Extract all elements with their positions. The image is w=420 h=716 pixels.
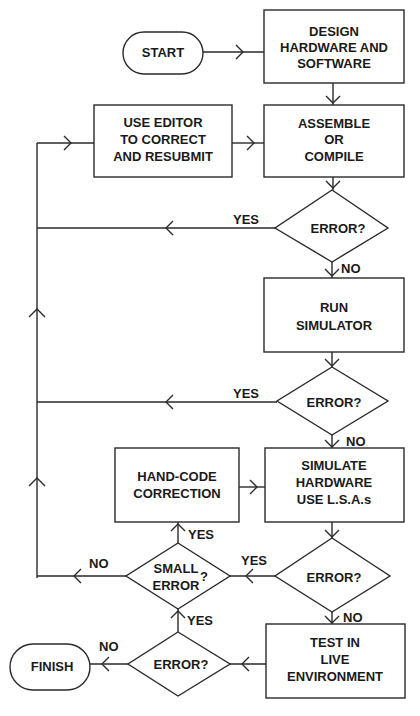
start-terminator: START [123,32,203,74]
handcode-line-2: CORRECTION [133,486,220,501]
error1-no-label: NO [341,261,361,276]
small-error-question-mark: ? [200,569,208,584]
test-line-1: TEST IN [310,635,360,650]
start-label: START [142,45,184,60]
test-line-3: ENVIRONMENT [287,669,383,684]
run-simulator-process: RUN SIMULATOR [264,278,404,352]
editor-line-1: USE EDITOR [123,115,203,130]
assemble-line-3: COMPILE [304,149,364,164]
assemble-line-1: ASSEMBLE [298,116,371,131]
design-process: DESIGN HARDWARE AND SOFTWARE [264,10,404,83]
error2-yes-label: YES [233,386,259,401]
small-error-line-1: SMALL [154,561,199,576]
test-live-process: TEST IN LIVE ENVIRONMENT [266,624,405,698]
error3-no-label: NO [343,610,363,625]
finish-label: FINISH [31,659,74,674]
small-error-yes-label: YES [188,527,214,542]
error1-decision: ERROR? [275,190,388,262]
error3-yes-label: YES [241,553,267,568]
error4-decision: ERROR? [128,632,230,696]
design-line-1: DESIGN [309,24,359,39]
run-sim-line-2: SIMULATOR [296,318,373,333]
editor-line-3: AND RESUBMIT [113,149,213,164]
test-line-2: LIVE [321,652,350,667]
simulate-line-2: HARDWARE [296,475,373,490]
error2-label: ERROR? [307,395,362,410]
error4-yes-label: YES [187,613,213,628]
flowchart: START DESIGN HARDWARE AND SOFTWARE ASSEM… [0,0,420,716]
error3-decision: ERROR? [275,538,390,612]
error2-decision: ERROR? [277,367,388,435]
design-line-3: SOFTWARE [297,56,371,71]
error1-yes-label: YES [233,212,259,227]
design-line-2: HARDWARE AND [280,40,388,55]
small-error-no-label: NO [89,556,109,571]
handcode-line-1: HAND-CODE [137,469,217,484]
error1-label: ERROR? [311,221,366,236]
small-error-line-2: ERROR [153,578,201,593]
error4-no-label: NO [99,639,119,654]
editor-line-2: TO CORRECT [120,132,206,147]
simulate-line-1: SIMULATE [301,458,367,473]
editor-process: USE EDITOR TO CORRECT AND RESUBMIT [94,105,232,177]
simulate-hardware-process: SIMULATE HARDWARE USE L.S.A.s [265,448,404,522]
run-sim-line-1: RUN [320,300,348,315]
error3-label: ERROR? [307,570,362,585]
finish-terminator: FINISH [10,644,90,690]
hand-code-process: HAND-CODE CORRECTION [115,448,239,522]
error2-no-label: NO [346,434,366,449]
small-error-decision: SMALL ERROR ? [126,543,230,609]
error4-label: ERROR? [154,657,209,672]
simulate-line-3: USE L.S.A.s [297,492,371,507]
assemble-process: ASSEMBLE OR COMPILE [264,105,404,177]
assemble-line-2: OR [324,132,344,147]
